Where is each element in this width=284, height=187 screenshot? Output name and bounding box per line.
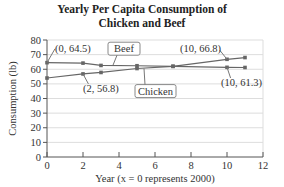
- y-tick-label: 50: [31, 78, 42, 89]
- legend-leader-beef: [113, 55, 117, 65]
- x-tick-label: 6: [152, 160, 157, 171]
- y-tick-label: 0: [36, 152, 41, 163]
- y-tick-label: 20: [31, 122, 42, 133]
- y-tick-label: 30: [31, 108, 42, 119]
- annotation-leader: [47, 49, 55, 63]
- series-line-chicken: [47, 58, 245, 78]
- y-tick-label: 70: [31, 49, 42, 60]
- legend-label-beef: Beef: [114, 43, 134, 54]
- annotation-10-66-8: (10, 66.8): [180, 43, 222, 55]
- y-tick-label: 60: [31, 64, 42, 75]
- data-point-beef: [243, 66, 247, 70]
- x-tick-label: 0: [44, 160, 49, 171]
- y-axis-label: Consumption (lb): [7, 61, 19, 136]
- x-axis-label: Year (x = 0 represents 2000): [95, 173, 215, 185]
- data-point-chicken: [135, 67, 139, 71]
- x-tick-label: 10: [222, 160, 233, 171]
- data-point-chicken: [243, 56, 247, 60]
- annotation-10-61-3: (10, 61.3): [221, 77, 263, 89]
- x-tick-label: 8: [188, 160, 193, 171]
- x-tick-label: 4: [116, 160, 122, 171]
- data-point-chicken: [99, 71, 103, 75]
- legend-label-chicken: Chicken: [138, 86, 174, 97]
- data-point-beef: [81, 61, 85, 65]
- series-line-beef: [47, 63, 245, 68]
- data-point-chicken: [45, 76, 49, 80]
- y-tick-label: 80: [31, 35, 42, 46]
- annotation-0-64-5: (0, 64.5): [55, 43, 91, 55]
- x-tick-label: 12: [258, 160, 269, 171]
- y-tick-label: 40: [31, 93, 42, 104]
- data-point-beef: [99, 64, 103, 68]
- annotation-2-56-8: (2, 56.8): [83, 83, 119, 95]
- y-tick-label: 10: [31, 137, 42, 148]
- x-tick-label: 2: [80, 160, 85, 171]
- chart-container: Yearly Per Capita Consumption of Chicken…: [0, 0, 284, 187]
- legend-leader-chicken: [144, 69, 145, 85]
- plot-area: 01020304050607080024681012Year (x = 0 re…: [0, 0, 284, 187]
- data-point-chicken: [171, 65, 175, 69]
- data-point-chicken: [81, 72, 85, 76]
